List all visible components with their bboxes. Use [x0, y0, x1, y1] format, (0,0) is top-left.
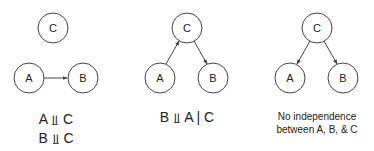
- node-a-label: A: [286, 72, 294, 84]
- edge-a-to-c: [166, 41, 179, 64]
- panel-1-caption: A ⫫ C B ⫫ C: [16, 110, 96, 148]
- node-c-label: C: [313, 22, 321, 34]
- node-b-label: B: [339, 72, 346, 84]
- node-c: C: [172, 13, 202, 43]
- caption-line: B ⫫ C: [16, 129, 96, 148]
- edge-c-to-a: [297, 41, 310, 64]
- node-a-label: A: [156, 72, 164, 84]
- caption-line: A ⫫ C: [16, 110, 96, 129]
- node-c: C: [38, 13, 68, 43]
- node-b-label: B: [209, 72, 216, 84]
- node-b-label: B: [79, 72, 86, 84]
- panel-2-caption: B ⫫ A | C: [137, 108, 237, 127]
- node-c-label: C: [183, 22, 191, 34]
- node-b: B: [328, 63, 358, 93]
- node-b: B: [68, 63, 98, 93]
- panel-1: C A B: [14, 13, 98, 93]
- caption-line: No independence: [262, 110, 372, 123]
- panel-2: C A B: [145, 13, 228, 93]
- node-a-label: A: [25, 72, 33, 84]
- node-a: A: [14, 63, 44, 93]
- node-a: A: [275, 63, 305, 93]
- edge-c-to-b: [194, 41, 207, 64]
- caption-line: between A, B, & C: [262, 123, 372, 136]
- panel-3: C A B: [275, 13, 358, 93]
- node-a: A: [145, 63, 175, 93]
- panel-3-caption: No independence between A, B, & C: [262, 110, 372, 136]
- node-c: C: [302, 13, 332, 43]
- node-c-label: C: [49, 22, 57, 34]
- caption-line: B ⫫ A | C: [137, 108, 237, 127]
- node-b: B: [198, 63, 228, 93]
- edge-c-to-b: [324, 41, 337, 64]
